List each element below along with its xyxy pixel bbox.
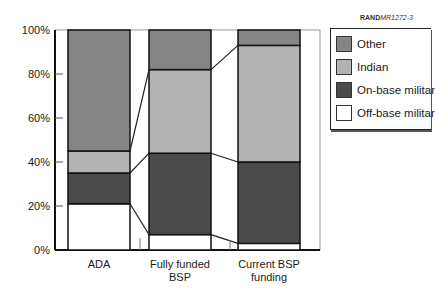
- bar-segment-indian: [149, 70, 211, 154]
- x-category-label: funding: [251, 271, 287, 283]
- legend: Other Indian On-base militar Off-base mi…: [330, 28, 431, 130]
- x-category-label: ADA: [88, 258, 111, 270]
- legend-swatch-on-base: [336, 82, 352, 98]
- bar-segment-other: [238, 30, 300, 45]
- source-brand: RAND: [360, 14, 380, 21]
- y-tick-label: 60%: [28, 112, 50, 124]
- connector-line: [211, 235, 238, 244]
- bar-segment-on-base-military: [149, 153, 211, 234]
- y-tick-label: 0%: [34, 244, 50, 256]
- legend-item-on-base-military: On-base militar: [336, 81, 435, 99]
- x-category-label: Fully funded: [150, 258, 210, 270]
- legend-item-other: Other: [336, 35, 386, 53]
- bar-segment-other: [68, 30, 130, 151]
- connector-line: [211, 45, 238, 69]
- bar-segment-other: [149, 30, 211, 70]
- legend-label: Off-base militar: [357, 107, 435, 119]
- bar-segment-on-base-military: [68, 173, 130, 204]
- bar-segment-off-base-military: [149, 235, 211, 250]
- legend-swatch-other: [336, 36, 352, 52]
- source-code: MR1272-3: [380, 14, 413, 21]
- y-tick-label: 100%: [22, 24, 50, 36]
- x-category-label: Current BSP: [238, 258, 300, 270]
- bar-segment-indian: [238, 45, 300, 162]
- x-category-label: BSP: [169, 271, 191, 283]
- connector-line: [130, 153, 149, 173]
- legend-swatch-indian: [336, 59, 352, 75]
- connector-line: [211, 153, 238, 162]
- y-tick-label: 80%: [28, 68, 50, 80]
- legend-label: On-base militar: [357, 84, 435, 96]
- legend-label: Other: [357, 38, 386, 50]
- legend-label: Indian: [357, 61, 388, 73]
- y-tick-label: 40%: [28, 156, 50, 168]
- connector-line: [130, 70, 149, 151]
- connector-line: [130, 204, 149, 235]
- y-tick-label: 20%: [28, 200, 50, 212]
- bar-segment-on-base-military: [238, 162, 300, 243]
- bar-segment-off-base-military: [238, 243, 300, 250]
- legend-swatch-off-base: [336, 105, 352, 121]
- bar-segment-indian: [68, 151, 130, 173]
- legend-item-off-base-military: Off-base militar: [336, 104, 435, 122]
- bar-segment-off-base-military: [68, 204, 130, 250]
- legend-item-indian: Indian: [336, 58, 388, 76]
- source-label: RANDMR1272-3: [360, 14, 413, 21]
